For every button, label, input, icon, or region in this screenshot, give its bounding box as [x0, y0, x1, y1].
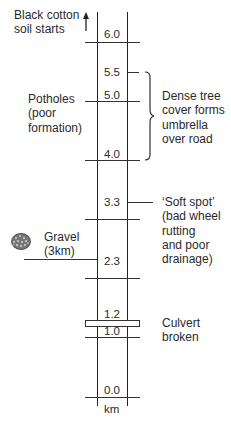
gravel-pile-icon — [12, 234, 31, 250]
arrow-up-icon — [83, 12, 89, 31]
diagram-graphics — [0, 0, 231, 426]
curly-brace — [145, 72, 154, 160]
